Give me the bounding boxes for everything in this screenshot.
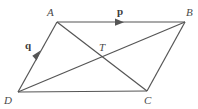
vertex-label-D: D <box>4 95 12 106</box>
vertex-label-A: A <box>47 7 54 18</box>
parallelogram-svg <box>0 0 198 109</box>
vertex-label-C: C <box>144 95 151 106</box>
edge-CD <box>18 91 147 92</box>
vector-p-arrowhead <box>115 19 124 26</box>
diagonal-DB <box>18 22 185 92</box>
vector-q-arrowhead <box>32 51 40 61</box>
vector-label-p: p <box>117 6 123 17</box>
vector-label-q: q <box>25 40 31 51</box>
intersection-label-T: T <box>99 42 105 53</box>
edge-BC <box>147 22 185 91</box>
vertex-label-B: B <box>186 7 193 18</box>
geometry-figure: A B C D T p q <box>0 0 198 109</box>
